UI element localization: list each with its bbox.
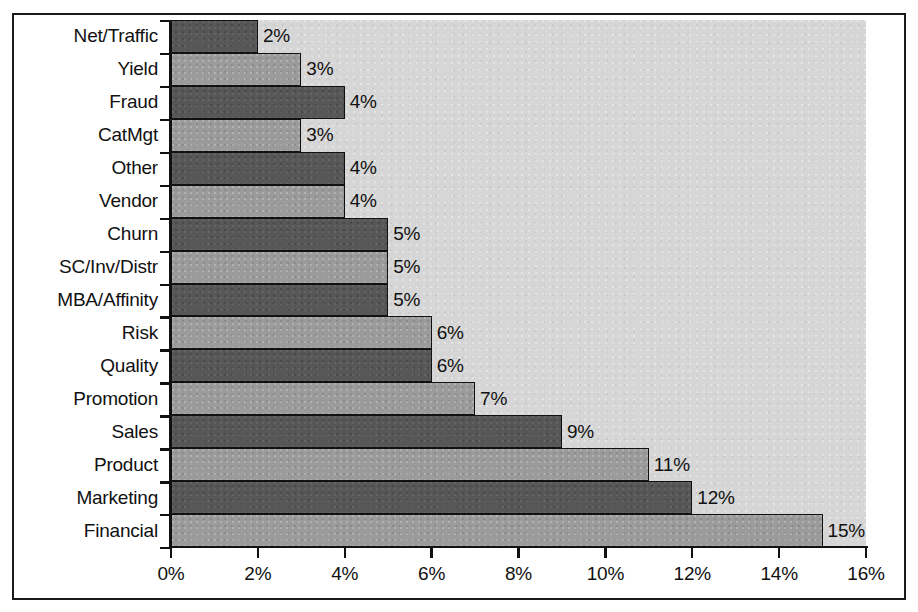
category-label-promotion: Promotion — [0, 388, 158, 410]
value-label-sc-inv-distr: 5% — [393, 256, 420, 278]
category-label-other: Other — [0, 157, 158, 179]
x-axis-tick-label: 14% — [739, 563, 819, 585]
value-label-promotion: 7% — [480, 388, 507, 410]
bar-row: Sales9% — [0, 415, 918, 448]
x-axis-tick — [517, 548, 519, 558]
bar-yield — [171, 53, 301, 86]
x-axis-tick-label: 6% — [392, 563, 472, 585]
x-axis-tick — [170, 548, 172, 558]
y-axis-tick — [160, 514, 170, 516]
value-label-marketing: 12% — [697, 487, 734, 509]
bar-mba-affinity — [171, 284, 388, 317]
category-label-product: Product — [0, 454, 158, 476]
bar-risk — [171, 316, 432, 349]
x-axis-tick-label: 16% — [826, 563, 906, 585]
bar-row: Other4% — [0, 152, 918, 185]
value-label-other: 4% — [350, 157, 377, 179]
bar-row: CatMgt3% — [0, 119, 918, 152]
category-label-financial: Financial — [0, 520, 158, 542]
bar-row: Net/Traffic2% — [0, 20, 918, 53]
bar-net-traffic — [171, 20, 258, 53]
value-label-risk: 6% — [437, 322, 464, 344]
category-label-vendor: Vendor — [0, 190, 158, 212]
y-axis-tick — [160, 152, 170, 154]
bar-row: Risk6% — [0, 316, 918, 349]
x-axis-tick — [778, 548, 780, 558]
bar-row: Fraud4% — [0, 86, 918, 119]
bar-row: Churn5% — [0, 218, 918, 251]
category-label-catmgt: CatMgt — [0, 124, 158, 146]
y-axis-tick — [160, 316, 170, 318]
value-label-mba-affinity: 5% — [393, 289, 420, 311]
x-axis-tick-label: 4% — [305, 563, 385, 585]
bar-row: Product11% — [0, 448, 918, 481]
bar-vendor — [171, 185, 345, 218]
value-label-yield: 3% — [306, 58, 333, 80]
bar-row: Quality6% — [0, 349, 918, 382]
x-axis-tick — [865, 548, 867, 558]
bar-sales — [171, 415, 562, 448]
value-label-product: 11% — [654, 454, 690, 476]
value-label-catmgt: 3% — [306, 124, 333, 146]
category-label-sales: Sales — [0, 421, 158, 443]
category-label-net-traffic: Net/Traffic — [0, 25, 158, 47]
value-label-churn: 5% — [393, 223, 420, 245]
value-label-vendor: 4% — [350, 190, 377, 212]
bar-row: SC/Inv/Distr5% — [0, 251, 918, 284]
x-axis-tick-label: 2% — [218, 563, 298, 585]
bar-row: Promotion7% — [0, 382, 918, 415]
category-label-fraud: Fraud — [0, 91, 158, 113]
bar-row: Marketing12% — [0, 481, 918, 514]
y-axis-tick — [160, 284, 170, 286]
y-axis-tick — [160, 415, 170, 417]
x-axis-tick — [430, 548, 432, 558]
value-label-financial: 15% — [828, 520, 865, 542]
y-axis-tick — [160, 448, 170, 450]
category-label-risk: Risk — [0, 322, 158, 344]
y-axis-tick — [160, 251, 170, 253]
x-axis-tick-label: 8% — [479, 563, 559, 585]
y-axis-tick — [160, 119, 170, 121]
bar-fraud — [171, 86, 345, 119]
category-label-quality: Quality — [0, 355, 158, 377]
y-axis-tick — [160, 86, 170, 88]
bar-row: Financial15% — [0, 514, 918, 547]
y-axis-tick — [160, 481, 170, 483]
category-label-mba-affinity: MBA/Affinity — [0, 289, 158, 311]
bar-product — [171, 448, 649, 481]
bar-row: Vendor4% — [0, 185, 918, 218]
x-axis-tick-label: 10% — [565, 563, 645, 585]
y-axis-tick — [160, 349, 170, 351]
bar-financial — [171, 514, 823, 547]
category-label-yield: Yield — [0, 58, 158, 80]
y-axis-tick — [160, 185, 170, 187]
x-axis-tick — [344, 548, 346, 558]
bars-layer: Net/Traffic2%Yield3%Fraud4%CatMgt3%Other… — [0, 0, 918, 612]
bar-sc-inv-distr — [171, 251, 388, 284]
category-label-sc-inv-distr: SC/Inv/Distr — [0, 256, 158, 278]
bar-catmgt — [171, 119, 301, 152]
bar-row: Yield3% — [0, 53, 918, 86]
x-axis-tick — [604, 548, 606, 558]
y-axis-tick — [160, 20, 170, 22]
y-axis-tick — [160, 218, 170, 220]
value-label-net-traffic: 2% — [263, 25, 290, 47]
value-label-sales: 9% — [567, 421, 594, 443]
bar-chart: Net/Traffic2%Yield3%Fraud4%CatMgt3%Other… — [0, 0, 918, 612]
bar-row: MBA/Affinity5% — [0, 284, 918, 317]
bar-other — [171, 152, 345, 185]
y-axis-tick — [160, 547, 170, 549]
bar-marketing — [171, 481, 692, 514]
y-axis-tick — [160, 382, 170, 384]
x-axis-tick-label: 12% — [652, 563, 732, 585]
bar-churn — [171, 218, 388, 251]
bar-quality — [171, 349, 432, 382]
x-axis-tick-label: 0% — [131, 563, 211, 585]
x-axis-tick — [691, 548, 693, 558]
category-label-churn: Churn — [0, 223, 158, 245]
value-label-fraud: 4% — [350, 91, 377, 113]
category-label-marketing: Marketing — [0, 487, 158, 509]
value-label-quality: 6% — [437, 355, 464, 377]
y-axis-tick — [160, 53, 170, 55]
bar-promotion — [171, 382, 475, 415]
